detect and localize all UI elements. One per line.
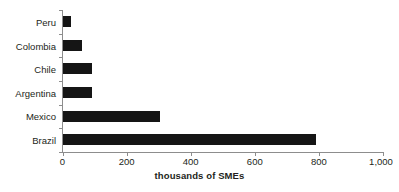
bar-row: [63, 128, 384, 152]
y-tick-label-brazil: Brazil: [32, 136, 56, 146]
bar-colombia: [63, 40, 83, 51]
bar-row: [63, 105, 384, 129]
bar-peru: [63, 16, 72, 27]
bar-row: [63, 34, 384, 58]
x-tick-label-1000: 1,000: [369, 156, 393, 167]
x-tick-label-400: 400: [183, 156, 199, 167]
bar-row: [63, 57, 384, 81]
bar-argentina: [63, 87, 93, 98]
x-tick-label-200: 200: [119, 156, 135, 167]
y-tick-label-chile: Chile: [34, 65, 56, 75]
bar-chart: Peru Colombia Chile Argentina Mexico Bra…: [0, 0, 399, 192]
bar-row: [63, 10, 384, 34]
plot-area: [63, 10, 384, 152]
bar-mexico: [63, 111, 161, 122]
y-tick-label-argentina: Argentina: [15, 89, 56, 99]
x-axis-line: [62, 152, 384, 153]
y-tick-label-mexico: Mexico: [26, 112, 56, 122]
y-tick-label-peru: Peru: [36, 18, 56, 28]
y-tick-label-colombia: Colombia: [16, 42, 56, 52]
x-tick-label-600: 600: [247, 156, 263, 167]
x-axis-title: thousands of SMEs: [0, 170, 399, 181]
bar-chile: [63, 63, 93, 74]
bar-row: [63, 81, 384, 105]
bar-brazil: [63, 134, 316, 145]
x-tick-label-0: 0: [60, 156, 65, 167]
x-tick-label-800: 800: [311, 156, 327, 167]
